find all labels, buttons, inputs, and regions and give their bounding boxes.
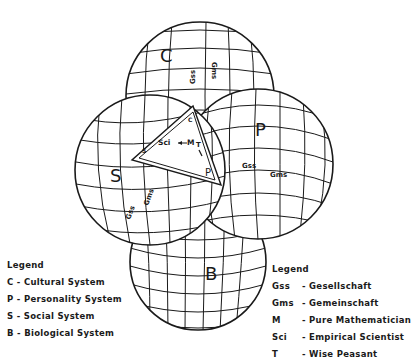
legend-item-p: P - Personality System	[7, 291, 122, 308]
sphere-label-p: P	[255, 119, 266, 140]
sphere-label-s: S	[110, 165, 121, 186]
triangle-vertex-p: P	[205, 167, 211, 178]
sphere-label-b: B	[205, 263, 217, 284]
triangle-m: M	[187, 138, 194, 147]
legend-item-gss: Gss- Gesellschaft	[272, 278, 411, 295]
sphere-c-gss: Gss	[189, 70, 197, 84]
legend-terms: Legend Gss- Gesellschaft Gms- Gemeinscha…	[272, 261, 411, 357]
sphere-c-gms: Gms	[210, 62, 218, 79]
sphere-label-c: C	[160, 45, 173, 66]
legend-item-s: S - Social System	[7, 308, 122, 325]
triangle-vertex-s: S	[142, 147, 146, 154]
triangle-vertex-c: C	[188, 116, 193, 123]
triangle-t: T	[196, 141, 201, 149]
sphere-p-gss: Gss	[242, 162, 256, 170]
legend-terms-title: Legend	[272, 261, 411, 278]
legend-systems: Legend C - Cultural System P - Personali…	[7, 257, 122, 342]
legend-item-b: B - Biological System	[7, 325, 122, 342]
legend-item-t: T- Wise Peasant	[272, 346, 411, 357]
legend-item-c: C - Cultural System	[7, 274, 122, 291]
legend-systems-title: Legend	[7, 257, 122, 274]
legend-item-m: M- Pure Mathematician	[272, 312, 411, 329]
legend-item-gms: Gms- Gemeinschaft	[272, 295, 411, 312]
sphere-p-gms: Gms	[270, 171, 287, 179]
legend-item-sci: Sci- Empirical Scientist	[272, 329, 411, 346]
triangle-sci: Sci	[158, 138, 170, 147]
